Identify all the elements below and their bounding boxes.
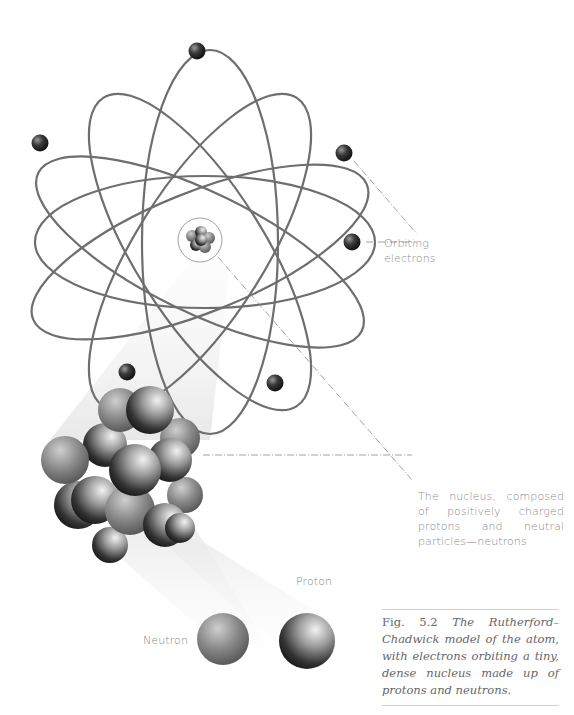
atom-diagram: Orbiting electrons The nucleus, composed… <box>0 0 574 715</box>
nucleus-label: The nucleus, composed of positively char… <box>418 489 564 549</box>
orbiting-label-line2: electrons <box>384 251 474 266</box>
orbiting-electrons-label: Orbiting electrons <box>384 236 474 266</box>
proton-sphere <box>279 613 335 669</box>
orbiting-label-line1: Orbiting <box>384 236 474 251</box>
neutron-label: Neutron <box>143 633 188 648</box>
figure-number: Fig. 5.2 <box>382 615 438 629</box>
electron-icon <box>336 145 353 162</box>
electron-icon <box>119 364 136 381</box>
atom-illustration <box>0 0 574 715</box>
neutron-sphere <box>197 613 249 665</box>
figure-caption: Fig. 5.2 The Rutherford–Chadwick model o… <box>382 609 559 706</box>
electron-icon <box>267 375 284 392</box>
electron-icon <box>344 234 361 251</box>
proton-label: Proton <box>296 574 332 589</box>
electron-icon <box>32 135 49 152</box>
leader-lines <box>203 161 417 480</box>
small-nucleus <box>178 218 222 262</box>
electron-icon <box>189 43 206 60</box>
